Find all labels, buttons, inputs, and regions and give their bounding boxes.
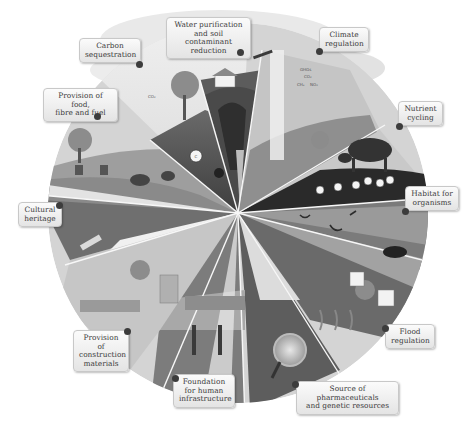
svg-text:C: C	[195, 154, 198, 159]
label-nutrient-cycling: Nutrient cycling	[398, 101, 443, 126]
label-source-of-pharmaceuticals: Source of pharmaceuticals and genetic re…	[296, 381, 399, 415]
label-dot	[172, 375, 179, 382]
label-dot	[292, 381, 299, 388]
svg-text:GHGs: GHGs	[300, 67, 311, 72]
label-dot	[396, 123, 403, 130]
label-provision-of-food: Provision of food, fibre and fuel	[43, 88, 118, 122]
mole-icon	[383, 246, 407, 258]
label-construction-materials: Provision of construction materials	[73, 330, 129, 372]
svg-text:NO₂: NO₂	[310, 82, 318, 87]
svg-text:CO₂: CO₂	[148, 94, 156, 99]
label-dot	[136, 61, 143, 68]
ecosystem-services-wheel: C CO₂ GHGs	[0, 0, 471, 427]
label-dot	[124, 328, 131, 335]
label-foundation-for-infrastructure: Foundation for human infrastructure	[173, 374, 235, 408]
label-dot	[94, 113, 101, 120]
label-habitat-for-organisms: Habitat for organisms	[405, 186, 459, 211]
label-dot	[402, 208, 409, 215]
label-carbon-sequestration: Carbon sequestration	[79, 38, 141, 63]
label-dot	[382, 325, 389, 332]
label-flood-regulation: Flood regulation	[385, 324, 435, 349]
svg-text:CH₄: CH₄	[297, 82, 305, 87]
magnifier-icon	[274, 334, 306, 366]
bridge-arches	[185, 296, 245, 310]
label-dot	[237, 49, 244, 56]
svg-text:CO₂: CO₂	[304, 74, 312, 79]
label-dot	[316, 48, 323, 55]
label-dot	[56, 202, 63, 209]
label-climate-regulation: Climate regulation	[319, 27, 369, 52]
